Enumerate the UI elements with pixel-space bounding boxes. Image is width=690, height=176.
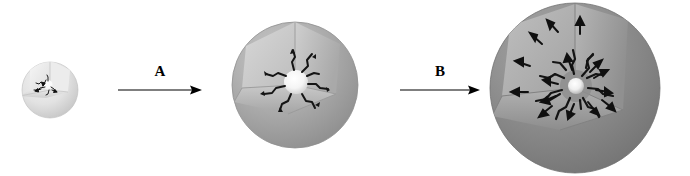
stage-2-core [284, 70, 308, 94]
stage-2-graphic [228, 16, 368, 161]
reaction-arrow-b-label: B [428, 64, 452, 79]
stage-1-graphic [0, 40, 110, 150]
stage-2-medium-sphere [228, 16, 368, 161]
process-diagram: A [0, 0, 690, 176]
stage-3-core [568, 78, 584, 94]
stage-3-graphic [486, 0, 672, 176]
stage-3-large-sphere [486, 0, 672, 176]
reaction-arrow-a-label: A [148, 64, 172, 79]
stage-1-small-sphere [0, 40, 110, 150]
